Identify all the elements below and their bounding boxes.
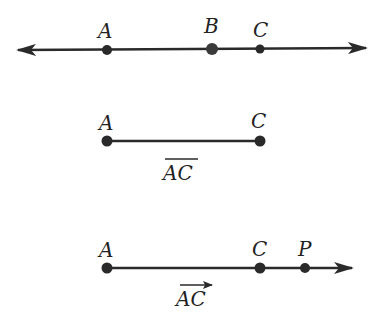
ray-point-c — [255, 263, 266, 274]
point-b — [206, 43, 218, 55]
ray-point-a — [102, 263, 113, 274]
point-a — [102, 45, 112, 55]
ray-point-p — [300, 263, 310, 273]
ray-label-p: P — [297, 237, 312, 261]
geometry-diagram: A B C A C AC A C P AC — [0, 0, 381, 324]
label-a: A — [96, 19, 112, 43]
ray-ac: A C P AC — [97, 237, 352, 311]
point-c — [256, 45, 265, 54]
segment-name: AC — [161, 161, 193, 185]
segment-label-a: A — [97, 111, 113, 135]
segment-ac: A C AC — [97, 109, 266, 185]
segment-point-c — [255, 136, 266, 147]
ray-name: AC — [174, 287, 206, 311]
line-abc: A B C — [18, 14, 366, 55]
ray-label-a: A — [97, 238, 113, 262]
ray-label-c: C — [252, 237, 267, 261]
segment-label-c: C — [251, 109, 266, 133]
line-arrow-both — [18, 48, 366, 50]
label-b: B — [203, 14, 219, 38]
label-c: C — [253, 18, 268, 42]
segment-point-a — [102, 136, 113, 147]
